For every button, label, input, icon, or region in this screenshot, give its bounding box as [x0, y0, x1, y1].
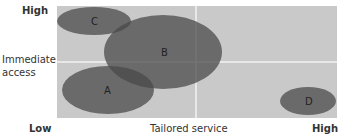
bubble-c-label: C — [91, 16, 98, 27]
y-axis-title-line2: access — [2, 67, 36, 78]
x-axis-high-label: High — [312, 123, 338, 134]
bubble-d-label: D — [305, 96, 313, 107]
x-axis-low-label: Low — [29, 123, 51, 134]
x-axis-title: Tailored service — [150, 123, 228, 134]
bubble-b-label: B — [161, 47, 168, 58]
bubble-a-label: A — [104, 85, 111, 96]
y-axis-title-line1: Immediate — [2, 54, 56, 65]
y-axis-high-label: High — [22, 5, 48, 16]
